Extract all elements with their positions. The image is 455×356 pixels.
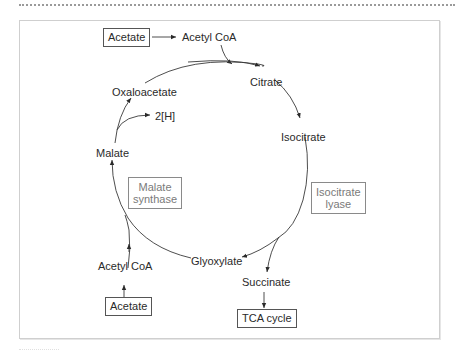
reducing-equivalents-label: 2[H] xyxy=(155,110,175,122)
pathway-arrows xyxy=(0,0,455,356)
arc-oxaloacetate-to-top xyxy=(145,62,264,83)
malate-synthase-box: Malate synthase xyxy=(128,177,182,209)
acetyl-coa-bottom-label: Acetyl CoA xyxy=(98,260,152,272)
arrow-glyoxylate-to-malate xyxy=(112,160,191,258)
malate-label: Malate xyxy=(96,147,129,159)
isocitrate-lyase-line2: lyase xyxy=(316,198,361,210)
tca-cycle-box: TCA cycle xyxy=(237,309,297,328)
malate-synthase-line1: Malate xyxy=(133,181,177,193)
isocitrate-lyase-box: Isocitrate lyase xyxy=(311,182,366,214)
bottom-faint-rule xyxy=(19,349,59,350)
glyoxylate-label: Glyoxylate xyxy=(191,255,242,267)
tca-cycle-label: TCA cycle xyxy=(242,312,292,324)
arc-isocitrate-down xyxy=(278,137,308,238)
malate-synthase-line2: synthase xyxy=(133,193,177,205)
acetate-top-label: Acetate xyxy=(108,31,145,43)
isocitrate-label: Isocitrate xyxy=(281,131,326,143)
acetate-top-box: Acetate xyxy=(103,28,150,47)
succinate-label: Succinate xyxy=(242,276,290,288)
arrow-malate-to-2h xyxy=(117,115,150,130)
citrate-label: Citrate xyxy=(250,76,282,88)
acetate-bottom-label: Acetate xyxy=(110,300,147,312)
arrow-malate-to-oxaloacetate xyxy=(115,98,131,143)
isocitrate-lyase-line1: Isocitrate xyxy=(316,186,361,198)
arrow-isocitrate-to-glyoxylate xyxy=(242,238,278,257)
acetate-bottom-box: Acetate xyxy=(105,297,152,316)
acetyl-coa-top-label: Acetyl CoA xyxy=(182,31,236,43)
oxaloacetate-label: Oxaloacetate xyxy=(112,86,177,98)
